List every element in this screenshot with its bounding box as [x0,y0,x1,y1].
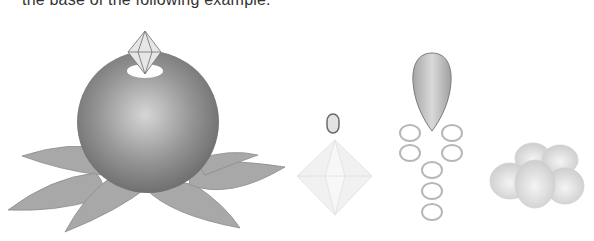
teardrop-with-rings-figure [400,53,462,220]
teardrop-bead-icon [413,53,451,131]
bead-and-crystal-figure [297,114,372,215]
ring-chain-icon [400,125,462,220]
crystal-icon [297,140,372,215]
small-bead-icon [327,114,339,133]
illustration-canvas [0,0,594,241]
bead-cluster-figure [490,143,584,208]
ornament-on-leaves-figure [8,31,285,232]
